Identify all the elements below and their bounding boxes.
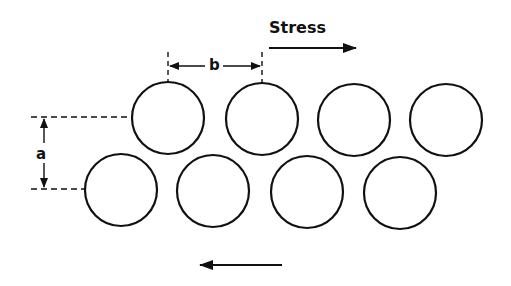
circle-top-2: [226, 83, 298, 155]
circle-top-1: [132, 82, 204, 154]
dimension-a: [31, 117, 132, 189]
top-row-circles: [132, 82, 482, 156]
circle-top-4: [410, 84, 482, 156]
circle-top-3: [318, 84, 390, 156]
circle-bottom-4: [364, 157, 436, 229]
circle-bottom-1: [85, 154, 157, 226]
circle-bottom-3: [271, 156, 343, 228]
spacing-b-label: b: [209, 58, 220, 73]
diagram-canvas: [0, 0, 511, 286]
spacing-a-label: a: [36, 147, 46, 162]
circle-bottom-2: [177, 155, 249, 227]
stress-label: Stress: [269, 20, 326, 36]
bottom-row-circles: [85, 154, 436, 229]
